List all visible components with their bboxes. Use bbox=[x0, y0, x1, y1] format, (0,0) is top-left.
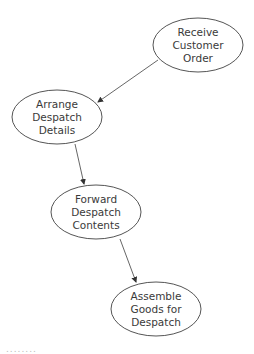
label-line: Despatch bbox=[71, 206, 121, 219]
label-line: Forward bbox=[71, 193, 121, 206]
node-label-forward-despatch-contents: Forward Despatch Contents bbox=[71, 193, 121, 232]
label-line: Details bbox=[32, 124, 82, 137]
label-line: Despatch bbox=[131, 316, 182, 329]
edge-n3-n4 bbox=[120, 239, 136, 282]
label-line: Customer bbox=[172, 39, 223, 52]
edge-n2-n3 bbox=[75, 144, 84, 184]
truncated-caption-fragment: ........ bbox=[6, 344, 37, 354]
edge-n1-n2 bbox=[98, 60, 158, 102]
node-label-receive-customer-order: Receive Customer Order bbox=[172, 26, 223, 65]
label-line: Contents bbox=[71, 219, 121, 232]
label-line: Order bbox=[172, 52, 223, 65]
label-line: Assemble bbox=[131, 290, 182, 303]
label-line: Despatch bbox=[32, 111, 82, 124]
label-line: Goods for bbox=[131, 303, 182, 316]
node-label-arrange-despatch-details: Arrange Despatch Details bbox=[32, 98, 82, 137]
label-line: Arrange bbox=[32, 98, 82, 111]
label-line: Receive bbox=[172, 26, 223, 39]
node-label-assemble-goods-for-despatch: Assemble Goods for Despatch bbox=[131, 290, 182, 329]
